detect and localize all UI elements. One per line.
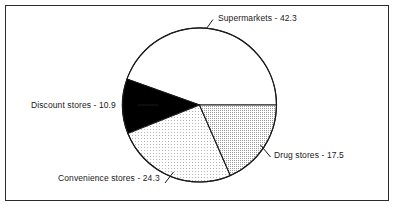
leader-line-drug-stores bbox=[261, 145, 271, 157]
pie-label-discount-stores: Discount stores - 10.9 bbox=[31, 100, 116, 110]
pie-label-drug-stores: Drug stores - 17.5 bbox=[274, 150, 344, 160]
leader-line-supermarkets bbox=[207, 20, 214, 29]
pie-chart-figure: Supermarkets - 42.3 Discount stores - 10… bbox=[0, 0, 397, 209]
pie-label-convenience-stores: Convenience stores - 24.3 bbox=[58, 173, 160, 183]
pie-label-supermarkets: Supermarkets - 42.3 bbox=[218, 13, 297, 23]
